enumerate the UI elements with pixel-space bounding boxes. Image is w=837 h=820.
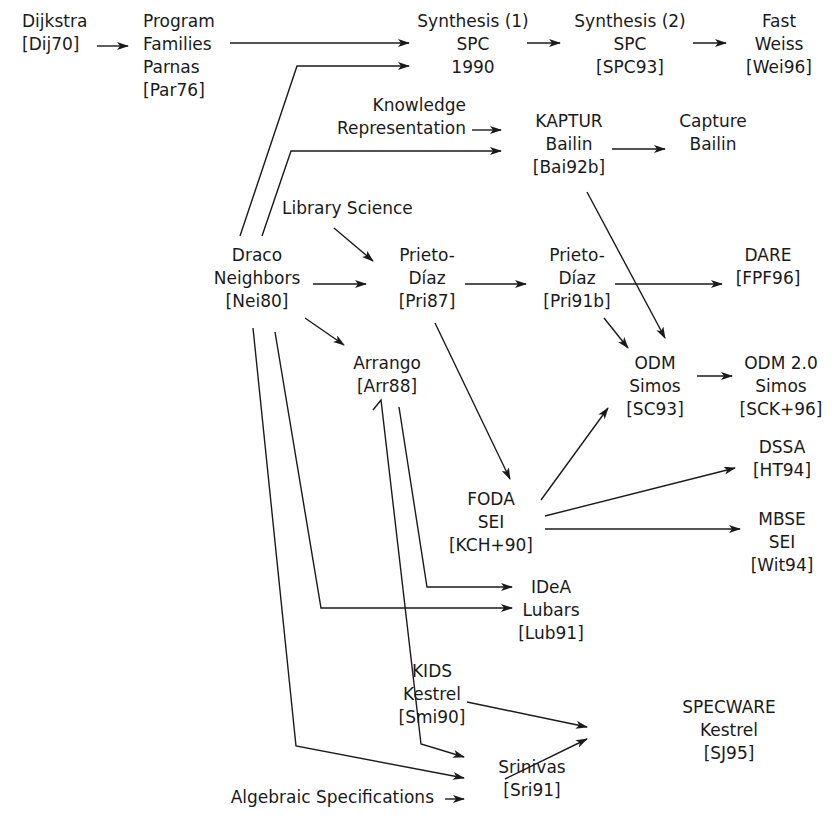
node-capture: CaptureBailin — [679, 110, 747, 156]
node-label-line: [Wit94] — [751, 554, 814, 577]
node-kaptur: KAPTURBailin[Bai92b] — [533, 110, 606, 179]
genealogy-diagram: Dijkstra[Dij70]ProgramFamiliesParnas[Par… — [0, 0, 837, 820]
node-label-line: [Sri91] — [498, 779, 565, 802]
node-label-line: SPC — [574, 33, 685, 56]
node-label-line: [FPF96] — [736, 267, 801, 290]
node-dare: DARE[FPF96] — [736, 244, 801, 290]
node-odm-2: ODM 2.0Simos[SCK+96] — [740, 352, 823, 421]
node-prieto-diaz-91b: Prieto-Díaz[Pri91b] — [543, 244, 610, 313]
node-arrango: Arrango[Arr88] — [353, 352, 421, 398]
node-label-line: ODM 2.0 — [740, 352, 823, 375]
node-srinivas: Srinivas[Sri91] — [498, 756, 565, 802]
node-label-line: Synthesis (2) — [574, 10, 685, 33]
node-label-line: Dijkstra — [22, 10, 87, 33]
node-kids: KIDSKestrel[Smi90] — [399, 660, 466, 729]
edge-draco-to-kaptur — [262, 151, 501, 236]
node-label-line: Bailin — [679, 133, 747, 156]
node-label-line: Prieto- — [399, 244, 456, 267]
node-foda: FODASEI[KCH+90] — [449, 488, 533, 557]
node-label-line: Fast — [746, 10, 812, 33]
node-label-line: [KCH+90] — [449, 534, 533, 557]
node-label-line: Algebraic Specifications — [231, 786, 434, 809]
node-label-line: Draco — [214, 244, 301, 267]
node-label-line: [Par76] — [143, 79, 215, 102]
node-label-line: Kestrel — [682, 719, 776, 742]
node-program-families: ProgramFamiliesParnas[Par76] — [143, 10, 215, 102]
node-label-line: [Pri91b] — [543, 290, 610, 313]
node-label-line: MBSE — [751, 508, 814, 531]
node-label-line: DSSA — [753, 436, 811, 459]
edge-prieto-diaz-91b-to-odm — [604, 318, 628, 348]
node-label-line: SEI — [751, 531, 814, 554]
node-label-line: Arrango — [353, 352, 421, 375]
node-draco: DracoNeighbors[Nei80] — [214, 244, 301, 313]
edge-foda-to-dssa — [545, 468, 735, 516]
node-label-line: Program — [143, 10, 215, 33]
node-label-line: [Arr88] — [353, 375, 421, 398]
node-label-line: [Wei96] — [746, 56, 812, 79]
node-label-line: SPC — [417, 33, 528, 56]
node-label-line: 1990 — [417, 56, 528, 79]
node-odm: ODMSimos[SC93] — [626, 352, 684, 421]
node-label-line: [Lub91] — [518, 622, 584, 645]
node-label-line: Simos — [626, 375, 684, 398]
node-fast: FastWeiss[Wei96] — [746, 10, 812, 79]
node-label-line: [Smi90] — [399, 706, 466, 729]
node-idea: IDeALubars[Lub91] — [518, 576, 584, 645]
node-algebraic-specifications: Algebraic Specifications — [231, 786, 434, 809]
node-synthesis-1: Synthesis (1)SPC1990 — [417, 10, 528, 79]
node-label-line: Synthesis (1) — [417, 10, 528, 33]
node-label-line: Parnas — [143, 56, 215, 79]
node-label-line: Neighbors — [214, 267, 301, 290]
node-label-line: KIDS — [399, 660, 466, 683]
node-label-line: Díaz — [399, 267, 456, 290]
node-label-line: Library Science — [282, 197, 413, 220]
node-label-line: Knowledge — [337, 94, 466, 117]
node-specware: SPECWAREKestrel[SJ95] — [682, 696, 776, 765]
node-label-line: Families — [143, 33, 215, 56]
node-label-line: Weiss — [746, 33, 812, 56]
node-label-line: [SJ95] — [682, 742, 776, 765]
node-label-line: Kestrel — [399, 683, 466, 706]
node-label-line: DARE — [736, 244, 801, 267]
edge-draco-to-arrango — [305, 318, 344, 345]
node-label-line: SEI — [449, 511, 533, 534]
node-label-line: [Dij70] — [22, 33, 87, 56]
node-knowledge-representation: KnowledgeRepresentation — [337, 94, 466, 140]
edge-kids-to-specware — [467, 702, 587, 727]
node-label-line: Capture — [679, 110, 747, 133]
node-label-line: [SPC93] — [574, 56, 685, 79]
node-label-line: Lubars — [518, 599, 584, 622]
edge-prieto-diaz-87-to-foda — [435, 323, 510, 479]
node-prieto-diaz-87: Prieto-Díaz[Pri87] — [399, 244, 456, 313]
node-label-line: [Pri87] — [399, 290, 456, 313]
node-label-line: Bailin — [533, 133, 606, 156]
edge-library-science-to-prieto-diaz-87 — [334, 228, 373, 261]
node-label-line: IDeA — [518, 576, 584, 599]
node-label-line: Díaz — [543, 267, 610, 290]
node-label-line: Simos — [740, 375, 823, 398]
node-synthesis-2: Synthesis (2)SPC[SPC93] — [574, 10, 685, 79]
node-label-line: ODM — [626, 352, 684, 375]
node-label-line: KAPTUR — [533, 110, 606, 133]
node-label-line: FODA — [449, 488, 533, 511]
node-library-science: Library Science — [282, 197, 413, 220]
node-label-line: [SCK+96] — [740, 398, 823, 421]
node-label-line: [SC93] — [626, 398, 684, 421]
node-label-line: [Bai92b] — [533, 156, 606, 179]
node-label-line: [Nei80] — [214, 290, 301, 313]
node-label-line: [HT94] — [753, 459, 811, 482]
node-mbse: MBSESEI[Wit94] — [751, 508, 814, 577]
edge-foda-to-odm — [541, 408, 608, 500]
node-dssa: DSSA[HT94] — [753, 436, 811, 482]
node-label-line: Srinivas — [498, 756, 565, 779]
node-label-line: Representation — [337, 117, 466, 140]
node-label-line: Prieto- — [543, 244, 610, 267]
node-dijkstra: Dijkstra[Dij70] — [22, 10, 87, 56]
node-label-line: SPECWARE — [682, 696, 776, 719]
